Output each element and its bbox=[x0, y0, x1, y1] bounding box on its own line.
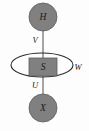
node-x-label: X bbox=[39, 103, 47, 113]
edge-label-u: U bbox=[32, 80, 39, 90]
node-h-label: H bbox=[39, 12, 48, 22]
self-loop-label-w: W bbox=[74, 62, 82, 72]
diagram-canvas: H S X V U W bbox=[0, 0, 89, 131]
figure-root: H S X V U W bbox=[0, 0, 89, 131]
node-s-label: S bbox=[41, 62, 46, 72]
